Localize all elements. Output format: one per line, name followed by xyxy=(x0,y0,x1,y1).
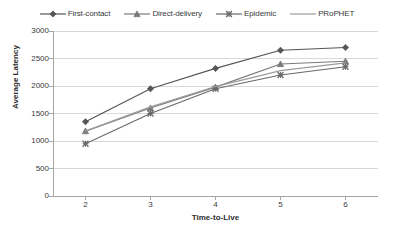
legend-label: Direct-delivery xyxy=(152,10,202,18)
data-point xyxy=(82,119,88,125)
y-axis-tick-labels: 050010001500200025003000 xyxy=(3,31,49,196)
data-point xyxy=(278,72,284,78)
plot-area xyxy=(53,31,378,196)
data-point xyxy=(147,86,153,92)
series-line xyxy=(86,63,346,131)
legend-item-direct-delivery[interactable]: Direct-delivery xyxy=(124,9,202,19)
legend-item-epidemic[interactable]: Epidemic xyxy=(216,9,276,19)
data-point xyxy=(277,47,283,53)
x-axis-tick-labels: 23456 xyxy=(53,201,378,213)
legend-marker-glyph xyxy=(50,11,56,17)
series-prophet xyxy=(86,63,346,131)
x-axis-title: Time-to-Live xyxy=(53,214,378,222)
y-tick-label: 0 xyxy=(7,192,49,200)
data-series-layer xyxy=(53,31,378,196)
legend-item-prophet[interactable]: PRoPHET xyxy=(290,9,354,19)
legend-item-first-contact[interactable]: First-contact xyxy=(40,9,111,19)
legend-marker-diamond-icon xyxy=(40,9,66,19)
x-tick-label: 2 xyxy=(66,201,106,209)
legend-label: First-contact xyxy=(68,10,111,18)
legend-label: PRoPHET xyxy=(318,10,354,18)
chart-legend: First-contactDirect-deliveryEpidemicPRoP… xyxy=(0,5,394,23)
x-tick-label: 6 xyxy=(326,201,366,209)
data-point xyxy=(343,64,349,70)
x-tick-label: 3 xyxy=(131,201,171,209)
data-point xyxy=(342,44,348,50)
legend-marker-cross-icon xyxy=(216,9,242,19)
legend-marker-none-icon xyxy=(290,9,316,19)
chart-container: First-contactDirect-deliveryEpidemicPRoP… xyxy=(0,0,394,231)
series-line xyxy=(86,67,346,144)
y-tick-label: 500 xyxy=(7,165,49,173)
x-tick-label: 4 xyxy=(196,201,236,209)
data-point xyxy=(83,141,89,147)
y-tick-label: 3000 xyxy=(7,27,49,35)
legend-marker-triangle-icon xyxy=(124,9,150,19)
legend-marker-glyph xyxy=(226,11,232,17)
y-axis-title: Average Latency xyxy=(12,37,20,117)
data-point xyxy=(212,65,218,71)
legend-label: Epidemic xyxy=(244,10,276,18)
x-tick-label: 5 xyxy=(261,201,301,209)
y-tick-label: 1000 xyxy=(7,137,49,145)
series-epidemic xyxy=(83,64,349,147)
data-point xyxy=(148,111,154,117)
